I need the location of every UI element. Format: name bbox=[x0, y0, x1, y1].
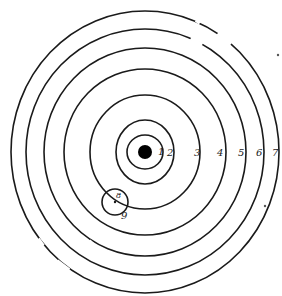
small-circle-center-dot bbox=[114, 201, 116, 203]
label-9: 9 bbox=[121, 210, 128, 221]
ring-labels: 1234567 bbox=[158, 146, 279, 158]
ring-label-1: 1 bbox=[158, 146, 164, 157]
stray-dot bbox=[277, 54, 279, 56]
ring-label-5: 5 bbox=[238, 147, 244, 158]
ring-gaps bbox=[38, 20, 231, 270]
ring-label-7: 7 bbox=[272, 147, 279, 158]
ring-label-6: 6 bbox=[256, 147, 263, 158]
concentric-rings-diagram: 1234567 8 9 bbox=[0, 0, 282, 296]
ring-label-2: 2 bbox=[166, 147, 173, 158]
ring-label-3: 3 bbox=[194, 147, 200, 158]
center-dot bbox=[138, 145, 152, 159]
label-8: 8 bbox=[116, 191, 121, 200]
ring-label-4: 4 bbox=[216, 147, 223, 158]
stray-dot bbox=[264, 205, 266, 207]
